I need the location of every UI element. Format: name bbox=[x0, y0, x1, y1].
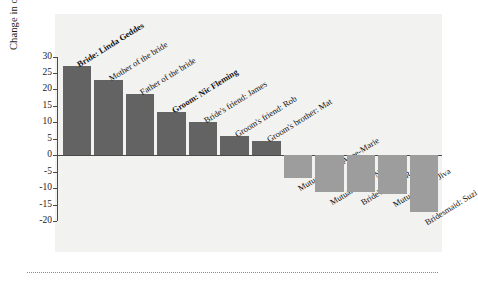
bar bbox=[284, 155, 312, 178]
y-axis-tick-label: -20 bbox=[24, 216, 52, 226]
bar bbox=[63, 66, 91, 156]
bar bbox=[347, 155, 375, 192]
y-axis-tick bbox=[53, 172, 57, 173]
y-axis-tick-label: 15 bbox=[24, 101, 52, 111]
y-axis-tick bbox=[53, 122, 57, 123]
y-axis-tick bbox=[53, 188, 57, 189]
y-axis-tick-label: 20 bbox=[24, 85, 52, 95]
bar bbox=[94, 80, 122, 156]
y-axis-tick-label: 0 bbox=[24, 151, 52, 161]
bar bbox=[220, 136, 248, 156]
y-axis-tick bbox=[53, 73, 57, 74]
y-axis-tick-label: -5 bbox=[24, 167, 52, 177]
bar bbox=[410, 155, 438, 212]
category-label: Father of the bride bbox=[139, 56, 198, 97]
y-axis-tick bbox=[53, 89, 57, 90]
y-axis-tick bbox=[53, 139, 57, 140]
y-axis-tick bbox=[53, 57, 57, 58]
y-axis-tick-label: 30 bbox=[24, 52, 52, 62]
y-axis-tick bbox=[53, 106, 57, 107]
bar bbox=[378, 155, 406, 194]
y-axis-tick-label: 10 bbox=[24, 118, 52, 128]
y-axis-tick-label: 25 bbox=[24, 68, 52, 78]
bar bbox=[252, 141, 280, 155]
y-axis-label: Change in oxytocin levels (%) bbox=[8, 0, 19, 50]
bar bbox=[126, 94, 154, 156]
y-axis-tick bbox=[53, 205, 57, 206]
bar bbox=[189, 122, 217, 156]
y-axis-tick-label: -15 bbox=[24, 200, 52, 210]
y-axis-tick-label: 5 bbox=[24, 134, 52, 144]
footer-dotted-rule bbox=[27, 272, 438, 273]
y-axis-tick-label: -10 bbox=[24, 183, 52, 193]
bar bbox=[157, 112, 185, 155]
y-axis-tick bbox=[53, 221, 57, 222]
y-axis-spine bbox=[57, 57, 58, 222]
bar bbox=[315, 155, 343, 191]
